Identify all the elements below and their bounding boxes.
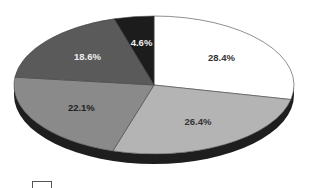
pie-chart: 28.4%26.4%22.1%18.6%4.6%	[0, 0, 314, 188]
slice-label: 18.6%	[74, 51, 101, 62]
legend-swatch	[32, 181, 52, 188]
slice-label: 4.6%	[131, 37, 153, 48]
slice-label: 26.4%	[184, 116, 211, 127]
slice-label: 22.1%	[68, 102, 95, 113]
pie-slices	[14, 16, 294, 154]
slice-label: 28.4%	[208, 52, 235, 63]
